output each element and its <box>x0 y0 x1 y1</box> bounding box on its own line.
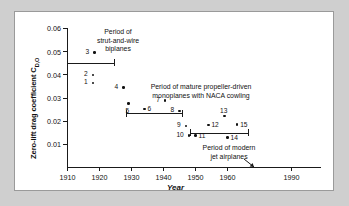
data-point <box>178 110 181 113</box>
x-tick-label: 1910 <box>53 173 82 182</box>
data-point-label: 10 <box>176 131 183 138</box>
data-point-label: 2 <box>84 70 88 77</box>
x-tick-label: 1940 <box>149 173 178 182</box>
data-point-label: 9 <box>177 121 181 128</box>
chart-figure: 0.06 0.05 0.04 0.03 0.02 0.01 1910 1920 … <box>14 11 334 191</box>
data-point <box>185 125 188 128</box>
x-tick-label: 1920 <box>85 173 114 182</box>
data-point <box>207 124 210 127</box>
plot-area: 0.06 0.05 0.04 0.03 0.02 0.01 1910 1920 … <box>15 12 333 190</box>
x-axis-line <box>67 167 321 168</box>
x-tick-label: 1930 <box>117 173 146 182</box>
data-point-label: 12 <box>211 121 218 128</box>
y-tick <box>63 121 67 122</box>
y-tick <box>63 51 67 52</box>
y-tick <box>63 144 67 145</box>
x-axis-label: Year <box>167 183 184 192</box>
x-tick-label: 1950 <box>181 173 210 182</box>
data-point-label: 6 <box>147 105 151 112</box>
y-axis-label-subscript: D,O <box>34 58 40 68</box>
data-point-label: 11 <box>199 132 206 139</box>
x-tick <box>195 167 196 171</box>
period-cap-left <box>190 129 191 136</box>
data-point-label: 8 <box>171 106 175 113</box>
x-tick-label: 1960 <box>213 173 242 182</box>
data-point-label: 5 <box>125 107 129 114</box>
data-point <box>122 86 125 89</box>
x-tick <box>131 167 132 171</box>
period-label-mature-propeller-driven-monoplanes: Period of mature propeller-driven monopl… <box>125 83 277 100</box>
x-tick-label: 1990 <box>277 173 306 182</box>
y-axis-label-text: Zero-lift drag coefficient C <box>29 67 38 159</box>
data-point <box>226 136 229 139</box>
data-point <box>223 115 226 118</box>
period-bar-strut-and-wire-biplanes <box>67 63 114 64</box>
period-text-line: Period of <box>75 28 161 37</box>
data-point <box>236 123 239 126</box>
x-tick <box>99 167 100 171</box>
y-tick <box>63 28 67 29</box>
data-point-label: 1 <box>84 78 88 85</box>
period-text-line: strut-and-wire <box>75 37 161 46</box>
data-point-label: 15 <box>240 121 247 128</box>
y-tick <box>63 74 67 75</box>
period-bar-mature-propeller-driven-monoplanes <box>126 113 182 114</box>
y-axis-line <box>67 28 68 167</box>
data-point-label: 14 <box>231 134 238 141</box>
period-cap-right <box>248 129 249 136</box>
period-cap-right <box>182 110 183 117</box>
data-point <box>92 74 95 77</box>
period-cap-left <box>67 59 68 66</box>
y-axis-label: Zero-lift drag coefficient CD,O <box>29 58 40 159</box>
x-tick <box>163 167 164 171</box>
axis-annotation-arrow-icon <box>243 158 269 170</box>
data-point-label: 7 <box>156 96 160 103</box>
period-text-line: Period of mature propeller-driven <box>125 83 277 92</box>
data-point-label: 4 <box>115 83 119 90</box>
data-point <box>127 102 130 105</box>
y-tick-label: 0.05 <box>33 48 61 57</box>
data-point <box>194 134 197 137</box>
data-point <box>92 82 95 85</box>
period-text-line: Period of modern <box>183 144 275 153</box>
data-point <box>143 108 146 111</box>
y-tick <box>63 98 67 99</box>
period-text-line: monoplanes with NACA cowling <box>125 92 277 101</box>
x-tick <box>227 167 228 171</box>
period-cap-right <box>114 59 115 66</box>
y-tick-label: 0.06 <box>33 24 61 33</box>
data-point <box>93 51 96 54</box>
data-point-label: 13 <box>220 107 227 114</box>
x-tick <box>291 167 292 171</box>
x-tick <box>67 167 68 171</box>
data-point-label: 3 <box>86 48 90 55</box>
